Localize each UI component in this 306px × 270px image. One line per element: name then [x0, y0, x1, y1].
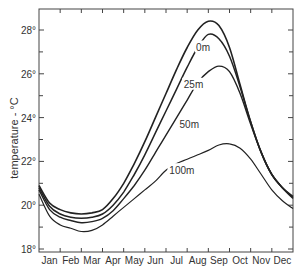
month-label: Sep: [210, 255, 228, 266]
month-label: Feb: [62, 255, 80, 266]
month-label: Dec: [274, 255, 292, 266]
y-tick-label: 18°: [21, 244, 36, 255]
y-axis: 18°20°22°24°26°28°: [21, 25, 293, 255]
curve-label: 0m: [196, 42, 210, 53]
temperature-chart: 18°20°22°24°26°28° JanFebMarAprMayJunJul…: [0, 0, 306, 270]
y-tick-label: 26°: [21, 69, 36, 80]
series-line-50m: [39, 66, 293, 223]
month-label: Jul: [170, 255, 183, 266]
month-label: Oct: [232, 255, 248, 266]
curve-label: 100m: [169, 165, 194, 176]
month-label: Apr: [105, 255, 121, 266]
series-line-0m: [39, 21, 293, 214]
plot-frame: [39, 9, 293, 252]
month-label: Jun: [147, 255, 163, 266]
curve-label: 50m: [180, 119, 199, 130]
y-axis-label: temperature - °C: [8, 97, 20, 178]
curves: [39, 21, 293, 232]
month-label: Jan: [42, 255, 58, 266]
y-tick-label: 22°: [21, 156, 36, 167]
y-tick-label: 24°: [21, 113, 36, 124]
series-line-25m: [39, 34, 293, 218]
month-label: Nov: [252, 255, 270, 266]
month-label: Mar: [83, 255, 101, 266]
curve-labels: 0m25m50m100m: [167, 41, 211, 176]
y-tick-label: 20°: [21, 200, 36, 211]
y-tick-label: 28°: [21, 25, 36, 36]
month-label: Aug: [189, 255, 207, 266]
chart-svg: 18°20°22°24°26°28° JanFebMarAprMayJunJul…: [0, 0, 306, 270]
month-label: May: [125, 255, 144, 266]
curve-label: 25m: [184, 79, 203, 90]
x-axis: JanFebMarAprMayJunJulAugSepOctNovDec: [42, 9, 292, 266]
